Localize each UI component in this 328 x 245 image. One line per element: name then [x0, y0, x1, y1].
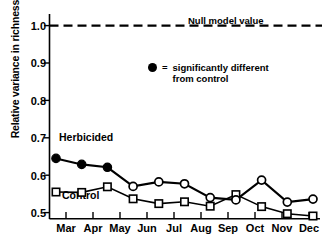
herbicided-data-point: [232, 196, 240, 204]
control-data-point: [258, 203, 265, 210]
herbicided-data-point: [181, 180, 189, 188]
chart-figure: Relative variance in richness (RVr) 1.0 …: [0, 0, 328, 245]
x-axis-ticks: [66, 212, 309, 219]
herbicided-data-point: [155, 178, 163, 186]
control-data-point: [284, 210, 291, 217]
herbicided-data-point: [206, 194, 214, 202]
plot-area: [0, 0, 328, 245]
control-data-point: [78, 189, 85, 196]
control-data-point: [181, 198, 188, 205]
herbicided-data-point: [258, 176, 266, 184]
herbicided-data-point-significant: [103, 163, 111, 171]
herbicided-data-point-significant: [78, 160, 86, 168]
control-data-point: [129, 195, 136, 202]
herbicided-data-point: [309, 195, 317, 203]
control-data-point: [104, 183, 111, 190]
y-axis-ticks: [44, 26, 50, 213]
control-data-point: [207, 203, 214, 210]
control-data-point: [52, 188, 59, 195]
herbicided-data-point: [129, 182, 137, 190]
herbicided-data-point: [283, 198, 291, 206]
control-data-point: [155, 200, 162, 207]
control-data-point: [309, 212, 316, 219]
herbicided-data-point-significant: [52, 154, 60, 162]
